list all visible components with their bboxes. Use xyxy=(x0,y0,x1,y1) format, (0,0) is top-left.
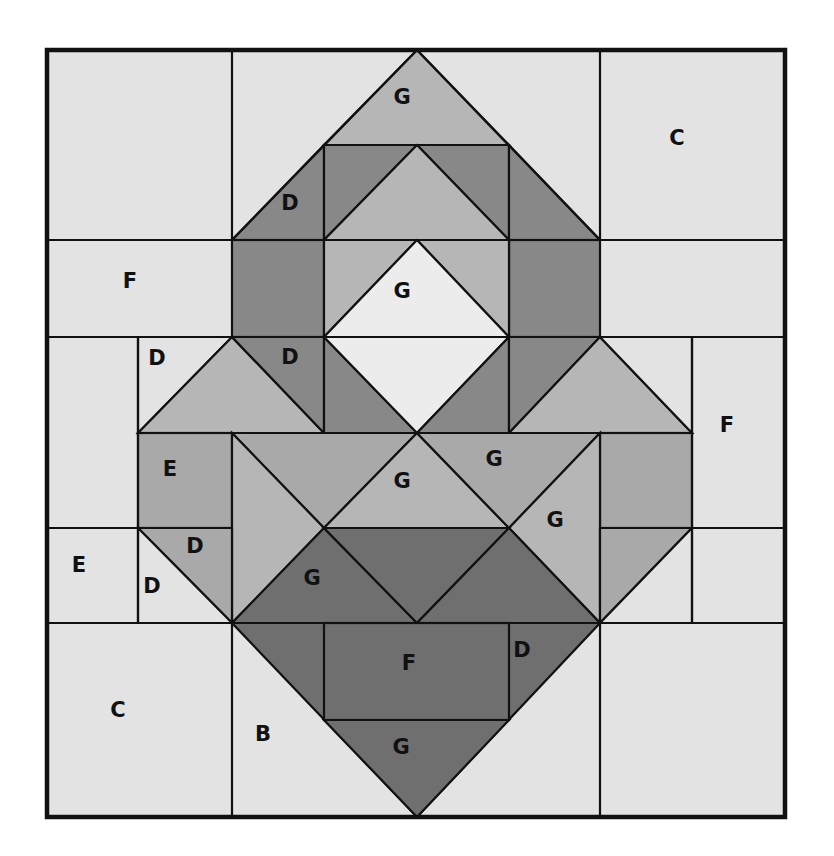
template-label-f-bottom-center: F xyxy=(402,651,416,675)
piece-dark-square-left xyxy=(232,240,324,337)
quilt-block-diagram: GCDFGDDFEGGGDEDGFDCBG xyxy=(0,0,834,856)
template-label-d-upper-left: D xyxy=(281,191,298,215)
template-label-g-right-side: G xyxy=(546,508,563,532)
piece-f-bottom-center xyxy=(324,623,509,720)
template-label-e-far-left: E xyxy=(72,553,86,577)
template-label-d-left-lower-2: D xyxy=(143,574,160,598)
piece-e-right xyxy=(600,433,692,528)
piece-dark-square-right xyxy=(509,240,600,337)
template-label-g-top: G xyxy=(393,85,410,109)
template-label-d-left-small: D xyxy=(148,346,165,370)
template-label-d-left-inner: D xyxy=(281,345,298,369)
template-label-g-mid-center: G xyxy=(393,469,410,493)
template-label-g-mid-right: G xyxy=(485,447,502,471)
template-label-b-bottom: B xyxy=(255,722,271,746)
template-label-c-bottom-left: C xyxy=(110,698,125,722)
template-label-g-bottom: G xyxy=(392,735,409,759)
template-label-f-left: F xyxy=(123,269,137,293)
template-label-d-bottom-right: D xyxy=(513,638,530,662)
piece-e-left xyxy=(138,433,232,528)
template-label-f-right: F xyxy=(720,413,734,437)
template-label-c-top-right: C xyxy=(669,126,684,150)
template-label-g-center-diamond: G xyxy=(393,279,410,303)
template-label-g-lower-left: G xyxy=(303,566,320,590)
template-label-d-left-lower-1: D xyxy=(186,534,203,558)
template-label-e-left: E xyxy=(163,457,177,481)
